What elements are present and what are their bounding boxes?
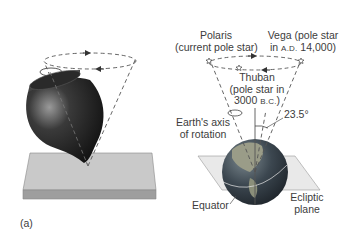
platform	[23, 153, 156, 199]
tilt-angle-label: 23.5°	[284, 109, 309, 121]
axis-line1: Earth's axis	[173, 117, 233, 129]
equator-label: Equator	[192, 200, 229, 212]
spin-arrow-icon	[228, 110, 242, 116]
equator-text: Equator	[192, 199, 229, 211]
vega-era: A.D.	[281, 44, 297, 53]
vega-label: Vega (pole star in A.D. 14,000)	[260, 30, 346, 54]
axis-line2: of rotation	[173, 129, 233, 141]
vega-prefix: in	[270, 41, 281, 53]
ecliptic-line1: Ecliptic	[284, 192, 330, 204]
ecliptic-line2: plane	[284, 204, 330, 216]
spinning-top-illustration	[23, 53, 156, 199]
polaris-name: Polaris	[175, 30, 257, 42]
thuban-label: Thuban (pole star in 3000 B.C.)	[225, 72, 289, 108]
polaris-label: Polaris (current pole star)	[175, 30, 257, 53]
ecliptic-label: Ecliptic plane	[284, 192, 330, 215]
polaris-desc: (current pole star)	[175, 42, 257, 54]
star-icon	[206, 58, 304, 71]
thuban-name: Thuban	[225, 72, 289, 84]
tilt-angle-value: 23.5°	[284, 108, 309, 120]
thuban-year-line: 3000 B.C.)	[225, 95, 289, 108]
vega-desc: in A.D. 14,000)	[260, 42, 346, 55]
vega-year: 14,000)	[297, 41, 336, 53]
thuban-era: B.C.	[260, 97, 276, 106]
equator-leader-line	[230, 196, 236, 204]
axis-label: Earth's axis of rotation	[173, 117, 233, 140]
thuban-close: )	[277, 94, 281, 106]
panel-label-text: (a)	[20, 217, 33, 229]
panel-label: (a)	[20, 218, 33, 230]
thuban-year: 3000	[234, 94, 260, 106]
top-body	[26, 67, 103, 166]
angle-leader-line	[266, 118, 283, 128]
